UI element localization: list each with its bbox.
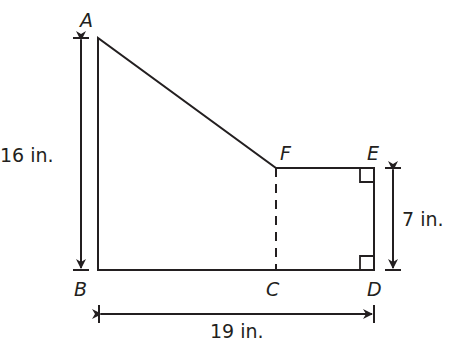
geometry-diagram: A B C D E F 16 in. 7 in. 19 in. [0,0,467,353]
vertex-label-d: D [367,278,382,300]
dimension-label-19in: 19 in. [210,320,264,342]
vertex-label-a: A [78,9,93,31]
composite-shape [98,38,374,270]
right-angle-mark-d [360,256,374,270]
dimension-label-7in: 7 in. [402,208,444,230]
dimension-height-de [385,168,401,270]
vertex-label-f: F [280,142,292,164]
dimension-label-16in: 16 in. [0,144,54,166]
vertex-label-b: B [74,278,87,300]
vertex-label-e: E [367,142,379,164]
right-angle-mark-e [360,168,374,182]
dimension-height-ab [73,38,89,270]
vertex-label-c: C [266,278,280,300]
